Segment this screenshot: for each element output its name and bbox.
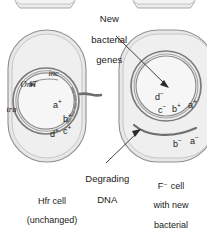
- plasmid-label-tra: tra: [0, 96, 16, 124]
- annotation-degrading-line2: DNA: [97, 194, 117, 205]
- caption-hfr-cell: Hfr cell (unchanged): [5, 187, 89, 231]
- gene-a-minus-fragment: a−: [180, 127, 199, 156]
- annotation-degrading-line1: Degrading: [85, 173, 129, 184]
- annotation-new-genes-line3: genes: [96, 54, 122, 65]
- figure-canvas: New bacterial genes inc OriT tra a+ b+ d…: [0, 0, 207, 231]
- annotation-new-bacterial-genes: New bacterial genes: [62, 4, 146, 76]
- annotation-new-genes-line1: New: [100, 13, 119, 24]
- gene-a-minus-fragment-charge: −: [195, 134, 199, 141]
- gene-a-plus-hfr-charge: +: [58, 98, 62, 105]
- gene-c-plus-hfr: c+: [53, 117, 71, 146]
- caption-f-minus-cell: F⁻ cell with new bacterial genes: a⁺ and…: [126, 172, 206, 231]
- caption-hfr-line2: (unchanged): [27, 215, 78, 225]
- caption-f-minus-line2: with new: [154, 200, 189, 210]
- gene-c-plus-hfr-charge: +: [68, 124, 72, 131]
- plasmid-label-orit-text: OriT: [21, 79, 38, 89]
- caption-f-minus-line1: F⁻ cell: [158, 181, 185, 191]
- caption-hfr-line1: Hfr cell: [38, 196, 66, 206]
- annotation-new-genes-line2: bacterial: [91, 34, 127, 45]
- gene-a-plus-recipient-charge: +: [193, 98, 197, 105]
- gene-b-minus-fragment: b−: [163, 130, 182, 159]
- plasmid-label-tra-text: tra: [7, 104, 17, 114]
- plasmid-label-inc: inc: [40, 60, 59, 88]
- plasmid-label-orit: OriT: [12, 71, 37, 99]
- caption-f-minus-line3: bacterial: [154, 220, 188, 230]
- plasmid-label-inc-text: inc: [49, 68, 59, 78]
- gene-a-plus-recipient: a+: [178, 91, 197, 120]
